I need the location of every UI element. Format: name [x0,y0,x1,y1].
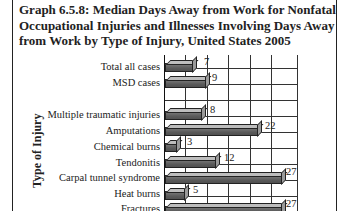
value-label: 12 [224,152,235,163]
value-label: 3 [187,136,192,147]
category-label: Multiple traumatic injuries [47,109,160,120]
category-label: Tendonitis [116,157,160,168]
value-label: 8 [210,104,215,115]
bar-tendonitis [165,159,217,168]
bar-msd-cases [165,79,207,88]
value-label: 27 [286,198,297,209]
value-label: 27 [286,166,297,177]
title-line-1: Graph 6.5.8: Median Days Away from Work … [19,2,339,18]
category-label: Chemical burns [94,141,160,152]
value-label: 22 [265,120,276,131]
category-label: Heat burns [114,188,160,199]
grid-line-v [297,55,298,211]
bar-total-all-cases [165,63,194,72]
value-label: 5 [193,184,198,195]
bar-amputations [165,127,259,136]
bar-multiple-traumatic-injuries [165,111,203,120]
y-axis-label: Type of Injury [30,114,45,188]
category-label: MSD cases [112,77,160,88]
chart-title: Graph 6.5.8: Median Days Away from Work … [19,2,339,49]
value-label: 7 [204,56,209,67]
grid-line-h [164,100,298,101]
title-line-3: from Work by Type of Injury, United Stat… [19,33,339,49]
bar-chemical-burns [165,143,178,152]
grid-line-v [271,55,272,211]
category-label: Carpal tunnel syndrome [59,172,160,183]
title-line-2: Occupational Injuries and Illnesses Invo… [19,18,339,34]
category-label: Fractures [121,203,160,211]
bar-heat-burns [165,191,186,200]
category-label: Amputations [106,125,160,136]
grid-line-h [164,148,298,149]
bar-carpal-tunnel-syndrome [165,175,283,184]
category-label: Total all cases [101,61,160,72]
value-label: 9 [212,72,217,83]
bar-fractures [165,206,283,211]
